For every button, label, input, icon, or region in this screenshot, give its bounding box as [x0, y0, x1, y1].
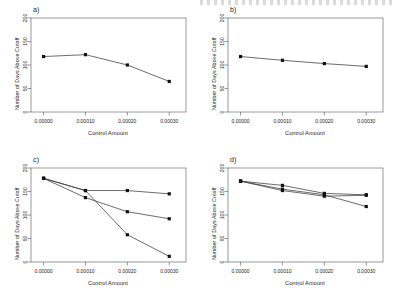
series-line-series-3 — [44, 178, 170, 256]
x-tick-label: 0.00020 — [118, 268, 136, 274]
y-tick-label: 150 — [22, 187, 28, 196]
x-tick-label: 0.00030 — [160, 118, 178, 124]
x-tick-label: 0.00010 — [273, 118, 291, 124]
y-tick-label: 200 — [219, 164, 225, 173]
x-tick-label: 0.00000 — [35, 268, 53, 274]
y-tick-label: 0 — [22, 260, 28, 263]
y-tick-label: 200 — [22, 164, 28, 173]
y-tick-label: 100 — [219, 61, 225, 70]
x-tick-label: 0.00020 — [118, 118, 136, 124]
y-tick-label: 100 — [22, 211, 28, 220]
plot-area: 0501001502000.000000.000100.000200.00030 — [197, 0, 394, 150]
data-point — [126, 63, 129, 66]
series-line-series-1 — [241, 57, 367, 67]
x-tick-label: 0.00030 — [357, 268, 375, 274]
data-point — [84, 196, 87, 199]
x-tick-label: 0.00000 — [232, 268, 250, 274]
y-tick-label: 0 — [22, 110, 28, 113]
data-point — [42, 55, 45, 58]
y-tick-label: 200 — [219, 14, 225, 23]
chart-panel-a: a)Number of Days Above CutoffControl Amo… — [0, 0, 197, 150]
data-point — [281, 59, 284, 62]
data-point — [126, 189, 129, 192]
chart-panel-c: c)Number of Days Above CutoffControl Amo… — [0, 150, 197, 300]
plot-frame — [228, 18, 383, 112]
x-tick-label: 0.00030 — [160, 268, 178, 274]
y-tick-label: 50 — [219, 86, 225, 92]
data-point — [365, 65, 368, 68]
plot-area: 0501001502000.000000.000100.000200.00030 — [197, 150, 394, 300]
data-point — [365, 205, 368, 208]
y-tick-label: 150 — [219, 187, 225, 196]
data-point — [168, 255, 171, 258]
x-tick-label: 0.00010 — [76, 118, 94, 124]
data-point — [281, 188, 284, 191]
plot-area: 0501001502000.000000.000100.000200.00030 — [0, 150, 197, 300]
plot-frame — [31, 18, 186, 112]
data-point — [365, 194, 368, 197]
y-tick-label: 0 — [219, 110, 225, 113]
series-line-series-1 — [241, 181, 367, 195]
data-point — [323, 193, 326, 196]
x-tick-label: 0.00000 — [232, 118, 250, 124]
y-tick-label: 200 — [22, 14, 28, 23]
x-tick-label: 0.00010 — [273, 268, 291, 274]
data-point — [239, 180, 242, 183]
data-point — [42, 177, 45, 180]
y-tick-label: 150 — [22, 37, 28, 46]
series-line-series-1 — [44, 55, 170, 82]
x-tick-label: 0.00000 — [35, 118, 53, 124]
data-point — [126, 210, 129, 213]
data-point — [281, 184, 284, 187]
data-point — [84, 189, 87, 192]
x-tick-label: 0.00020 — [315, 268, 333, 274]
data-point — [239, 55, 242, 58]
y-tick-label: 50 — [219, 236, 225, 242]
figure-canvas: a)Number of Days Above CutoffControl Amo… — [0, 0, 394, 301]
data-point — [168, 80, 171, 83]
data-point — [84, 53, 87, 56]
data-point — [126, 233, 129, 236]
x-tick-label: 0.00010 — [76, 268, 94, 274]
series-line-series-1 — [44, 178, 170, 194]
y-tick-label: 100 — [22, 61, 28, 70]
y-tick-label: 0 — [219, 260, 225, 263]
x-tick-label: 0.00020 — [315, 118, 333, 124]
data-point — [168, 192, 171, 195]
data-point — [323, 62, 326, 65]
chart-panel-d: d)Number of Days Above CutoffControl Amo… — [197, 150, 394, 300]
data-point — [168, 217, 171, 220]
y-tick-label: 50 — [22, 86, 28, 92]
y-tick-label: 150 — [219, 37, 225, 46]
y-tick-label: 50 — [22, 236, 28, 242]
y-tick-label: 100 — [219, 211, 225, 220]
x-tick-label: 0.00030 — [357, 118, 375, 124]
chart-panel-b: b)Number of Days Above CutoffControl Amo… — [197, 0, 394, 150]
plot-area: 0501001502000.000000.000100.000200.00030 — [0, 0, 197, 150]
